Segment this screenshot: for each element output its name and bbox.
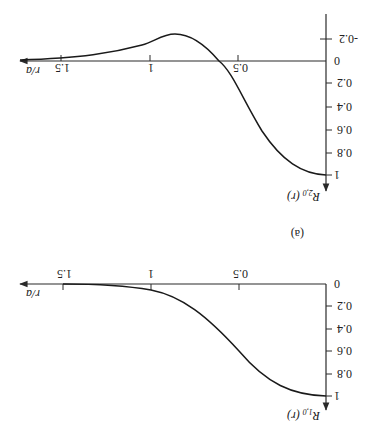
panel-b: R2,0 (r) r/a -0.2 0 0.2 0.4 0.6 0.8 1 0.…	[20, 14, 358, 204]
x-axis-label: r/a	[26, 287, 40, 301]
svg-text:0.6: 0.6	[337, 123, 352, 137]
x-axis-label: r/a	[26, 64, 40, 78]
svg-text:0.4: 0.4	[337, 100, 352, 114]
curve-r20	[20, 34, 326, 175]
y-axis-label: R2,0 (r)	[287, 188, 321, 204]
panel-a: R1,0 (r) r/a 0.2 0.4 0.6 0.8 1 0 0.5 1 1…	[20, 227, 352, 423]
svg-text:0: 0	[334, 54, 340, 68]
svg-text:1: 1	[334, 389, 340, 403]
caption-a: (a)	[291, 227, 304, 241]
y-axis-label: R1,0 (r)	[287, 407, 321, 423]
svg-text:0.8: 0.8	[337, 367, 352, 381]
svg-text:1: 1	[148, 61, 154, 75]
svg-text:0.2: 0.2	[337, 76, 352, 90]
svg-text:1.5: 1.5	[57, 267, 72, 281]
y-ticks: 0.2 0.4 0.6 0.8 1 0	[326, 277, 352, 403]
curve-r10	[63, 284, 326, 396]
svg-text:0.5: 0.5	[233, 267, 248, 281]
svg-text:0.2: 0.2	[337, 299, 352, 313]
svg-text:0.8: 0.8	[337, 146, 352, 160]
x-ticks: 0.5 1 1.5	[55, 55, 248, 75]
svg-text:-0.2: -0.2	[339, 32, 358, 46]
svg-text:1: 1	[334, 168, 340, 182]
figure: R1,0 (r) r/a 0.2 0.4 0.6 0.8 1 0 0.5 1 1…	[0, 0, 382, 436]
svg-text:0.5: 0.5	[233, 61, 248, 75]
svg-text:1.5: 1.5	[55, 61, 70, 75]
svg-text:1: 1	[148, 267, 154, 281]
x-ticks: 0.5 1 1.5	[57, 267, 248, 290]
svg-text:0.4: 0.4	[337, 322, 352, 336]
svg-text:0.6: 0.6	[337, 344, 352, 358]
svg-text:0: 0	[334, 277, 340, 291]
